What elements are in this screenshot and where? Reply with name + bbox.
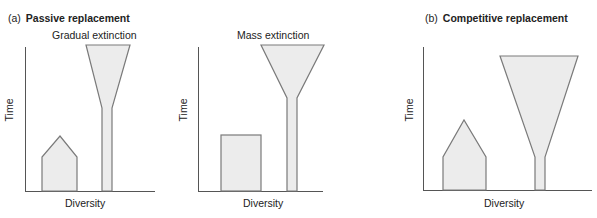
old-clade-shape bbox=[221, 135, 261, 191]
new-clade-shape bbox=[500, 56, 578, 190]
diagram-canvas bbox=[0, 0, 597, 218]
old-clade-shape bbox=[443, 120, 486, 190]
panel-competitive-replacement bbox=[423, 47, 592, 191]
subpanel-mass-extinction bbox=[198, 45, 324, 192]
subpanel-gradual-extinction bbox=[25, 45, 155, 192]
new-clade-shape bbox=[86, 45, 130, 191]
old-clade-shape bbox=[42, 136, 77, 191]
new-clade-shape bbox=[261, 45, 324, 191]
